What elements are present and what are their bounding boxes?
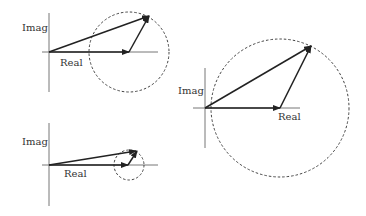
diagram-top-left: Imag Real [22, 12, 169, 92]
phasor-diagrams: Imag Real Imag Real Imag Real [0, 0, 366, 216]
resultant-arrow [49, 16, 149, 52]
real-label: Real [64, 168, 87, 179]
real-label: Real [60, 57, 83, 68]
diagram-bottom-left: Imag Real [22, 123, 158, 206]
rotating-vector-arrow [128, 151, 137, 165]
imag-label: Imag [178, 85, 204, 96]
resultant-arrow [49, 151, 136, 165]
real-label: Real [278, 111, 301, 122]
imag-label: Imag [22, 22, 48, 33]
imag-label: Imag [22, 136, 48, 147]
diagram-right: Imag Real [178, 39, 349, 177]
